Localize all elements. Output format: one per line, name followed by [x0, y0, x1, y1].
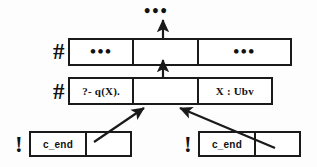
top-cell-middle: [132, 40, 196, 64]
top-cell-left: •••: [70, 40, 132, 64]
bottom-left-cell-empty: [85, 133, 130, 155]
top-cell-right: •••: [197, 40, 290, 64]
bottom-left-cell-label: c_end: [31, 133, 85, 155]
top-cell-right-text: •••: [233, 48, 255, 57]
bang-marker-bottom-left: !: [15, 133, 23, 156]
bang-marker-bottom-right: !: [184, 133, 192, 156]
middle-cell-binding: X : Ubv: [197, 79, 271, 103]
bottom-right-cell-empty: [254, 133, 299, 155]
middle-cell-goal-text: ?- q(X).: [82, 85, 120, 97]
hash-marker-middle-row: #: [53, 80, 65, 103]
middle-cell-binding-text: X : Ubv: [216, 85, 254, 97]
diagram-canvas: ••• # ••• ••• # ?- q(X). X : Ubv ! c_end: [0, 0, 317, 167]
top-continuation-dots: •••: [144, 6, 169, 17]
hash-marker-top-row: #: [53, 40, 65, 63]
bottom-right-row: c_end: [198, 131, 301, 157]
middle-cell-goal: ?- q(X).: [70, 79, 132, 103]
bottom-right-cell-label: c_end: [200, 133, 254, 155]
middle-row: ?- q(X). X : Ubv: [68, 77, 273, 105]
bottom-right-cell-label-text: c_end: [212, 139, 242, 150]
top-row: ••• •••: [68, 38, 292, 66]
bottom-left-cell-label-text: c_end: [43, 139, 73, 150]
top-cell-left-text: •••: [90, 48, 112, 57]
middle-cell-middle: [132, 79, 196, 103]
bottom-left-row: c_end: [29, 131, 132, 157]
